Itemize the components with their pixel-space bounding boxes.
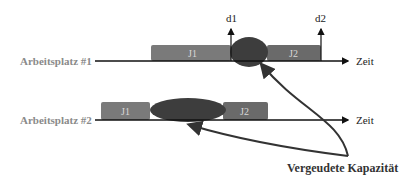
row1-d2-label: d2 xyxy=(315,12,326,24)
row2-axis-label: Zeit xyxy=(356,114,374,126)
row2-waste-ellipse xyxy=(150,98,226,122)
row2-label: Arbeitsplatz #2 xyxy=(20,114,92,126)
row1-d1-label: d1 xyxy=(226,12,237,24)
waste-arrow-row2 xyxy=(190,125,348,156)
waste-arrow-row1 xyxy=(262,65,348,156)
waste-annotation: Vergeudete Kapazität xyxy=(287,161,398,175)
row1-job-j1-label: J1 xyxy=(188,48,197,59)
row1-waste-ellipse xyxy=(230,37,268,67)
row1-job-j2-label: J2 xyxy=(289,48,298,59)
row2-job-j1-label: J1 xyxy=(121,106,130,117)
capacity-diagram: Arbeitsplatz #1 J1 J2 d1 d2 Zeit Arbeits… xyxy=(0,0,417,185)
row2-job-j2-label: J2 xyxy=(240,106,249,117)
row1-label: Arbeitsplatz #1 xyxy=(20,55,92,67)
row1-axis-label: Zeit xyxy=(356,55,374,67)
